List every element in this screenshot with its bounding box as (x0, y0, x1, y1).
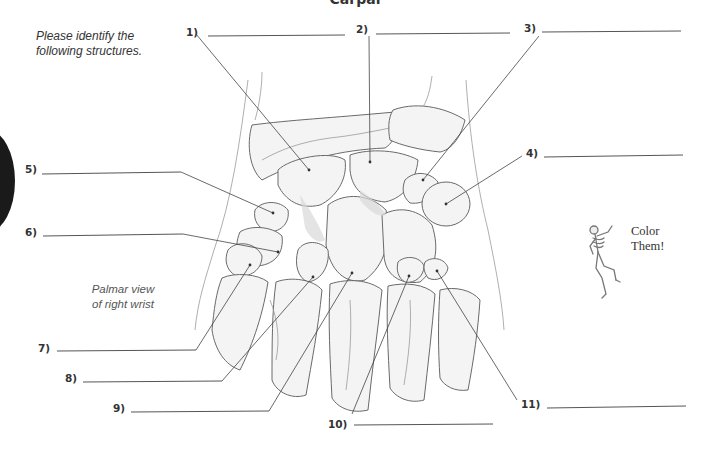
leader-line-1 (196, 34, 309, 170)
answer-blank-6[interactable] (43, 234, 183, 236)
target-dot-7 (249, 264, 252, 267)
color-note-line-1: Color (631, 224, 664, 239)
answer-blank-4[interactable] (544, 155, 683, 157)
target-dot-9 (351, 272, 354, 275)
label-number-1: 1) (186, 26, 198, 38)
target-dot-1 (308, 169, 311, 172)
label-number-6: 6) (25, 226, 37, 238)
label-number-4: 4) (526, 147, 538, 159)
target-dot-11 (436, 270, 439, 273)
leader-line-3 (423, 36, 539, 180)
target-dot-6 (277, 251, 280, 254)
target-dot-2 (369, 161, 372, 164)
label-number-7: 7) (38, 342, 50, 354)
leader-line-6 (183, 234, 278, 252)
answer-blank-9[interactable] (131, 411, 269, 412)
leader-line-8 (222, 277, 313, 381)
answer-blank-10[interactable] (354, 424, 493, 425)
target-dot-4 (445, 203, 448, 206)
leader-line-5 (181, 172, 273, 213)
label-number-10: 10) (328, 418, 347, 430)
target-dot-5 (272, 212, 275, 215)
answer-blank-3[interactable] (542, 31, 681, 32)
label-number-8: 8) (65, 372, 77, 384)
target-dot-10 (408, 275, 411, 278)
leader-line-10 (352, 276, 409, 414)
leader-line-4 (446, 156, 522, 204)
label-number-2: 2) (356, 23, 368, 35)
leader-line-9 (269, 273, 352, 411)
color-note-line-2: Them! (631, 239, 664, 254)
answer-blank-5[interactable] (42, 172, 181, 174)
answer-blank-1[interactable] (208, 35, 345, 36)
color-them-note: Color Them! (631, 224, 664, 254)
dancing-skeleton-icon (584, 222, 628, 302)
answer-blank-8[interactable] (83, 381, 222, 382)
label-number-3: 3) (524, 22, 536, 34)
label-number-9: 9) (113, 402, 125, 414)
leader-line-7 (196, 265, 250, 350)
answer-blank-11[interactable] (547, 406, 686, 408)
leader-line-2 (369, 36, 370, 162)
answer-blank-2[interactable] (376, 33, 510, 34)
answer-blank-7[interactable] (57, 350, 196, 351)
label-number-5: 5) (25, 163, 37, 175)
target-dot-3 (422, 179, 425, 182)
leader-line-11 (437, 271, 517, 400)
target-dot-8 (312, 276, 315, 279)
label-number-11: 11) (521, 398, 540, 410)
